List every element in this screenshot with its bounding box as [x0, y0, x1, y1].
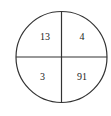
quadrant-top-left-value: 13 — [40, 31, 50, 42]
quadrant-top-right-value: 4 — [80, 31, 85, 42]
quadrant-bottom-left-value: 3 — [40, 71, 45, 82]
quadrant-bottom-right-value: 91 — [77, 71, 87, 82]
quadrant-circle-diagram: 13 4 3 91 — [0, 0, 111, 116]
